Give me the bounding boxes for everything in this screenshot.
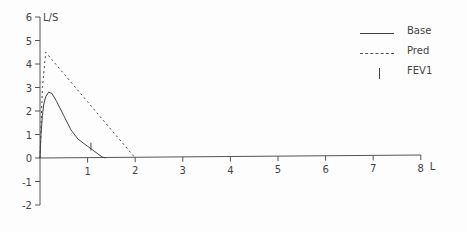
y-tick-label: 5: [26, 36, 32, 47]
y-tick-label: -2: [22, 200, 32, 211]
x-tick-label: 1: [84, 166, 90, 177]
legend-label: Pred: [407, 45, 429, 56]
x-tick-label: 7: [370, 163, 376, 174]
y-tick-label: -1: [22, 177, 32, 188]
tick-marker-swatch-icon: [379, 68, 380, 79]
chart-series: [40, 52, 135, 158]
y-tick-label: 4: [26, 59, 32, 70]
solid-line-swatch-icon: [360, 33, 394, 34]
legend-label: Base: [407, 25, 431, 36]
y-axis-label: L/S: [43, 12, 58, 23]
legend-item-pred: Pred: [355, 44, 465, 64]
pred-curve: [40, 52, 135, 158]
chart-legend: Base Pred FEV1: [355, 24, 465, 84]
dashed-line-swatch-icon: [360, 53, 394, 54]
y-tick-label: 3: [26, 83, 32, 94]
legend-item-base: Base: [355, 24, 465, 44]
x-tick-label: 5: [275, 164, 281, 175]
x-axis-label: L: [430, 161, 436, 172]
x-tick-label: 3: [180, 165, 186, 176]
legend-label: FEV1: [407, 65, 432, 76]
base-curve: [40, 92, 106, 158]
y-tick-label: 1: [26, 130, 32, 141]
x-tick-label: 4: [227, 165, 233, 176]
y-tick-label: 2: [26, 106, 32, 117]
legend-item-fev1: FEV1: [355, 64, 465, 84]
x-tick-label: 6: [322, 164, 328, 175]
x-tick-label: 8: [418, 163, 424, 174]
y-tick-label: 6: [26, 12, 32, 23]
x-tick-label: 2: [132, 165, 138, 176]
y-tick-label: 0: [26, 153, 32, 164]
